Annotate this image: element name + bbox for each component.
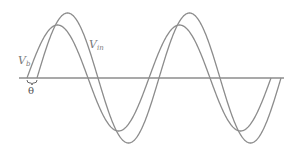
vb-label-sub: b	[26, 60, 30, 68]
vb-label-main: V	[18, 54, 26, 67]
theta-label: θ	[28, 86, 34, 96]
vb-label: Vb	[18, 55, 30, 68]
vin-label: Vin	[89, 39, 104, 52]
vin-label-main: V	[89, 38, 97, 51]
sine-phase-diagram: Vb Vin θ	[0, 0, 296, 150]
vin-label-sub: in	[97, 44, 104, 52]
waveform-plot	[0, 0, 296, 150]
